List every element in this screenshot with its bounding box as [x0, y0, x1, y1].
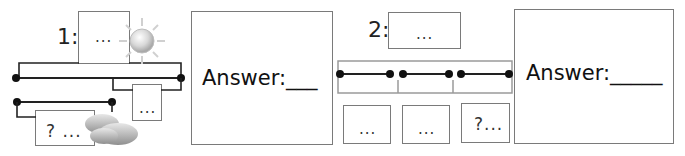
answer-2-label: Answer:_____	[526, 61, 663, 85]
problem-2-bottom-box-1[interactable]: ...	[343, 105, 391, 144]
problem-2-bottom-box-3[interactable]: ?...	[461, 103, 510, 143]
bottom-box-text: ?...	[474, 114, 503, 134]
bottom-box-text: ...	[359, 120, 376, 138]
answer-2-box[interactable]: Answer:_____	[514, 9, 674, 144]
bottom-box-text: ...	[418, 120, 435, 138]
problem-2-bottom-box-2[interactable]: ...	[402, 105, 450, 144]
